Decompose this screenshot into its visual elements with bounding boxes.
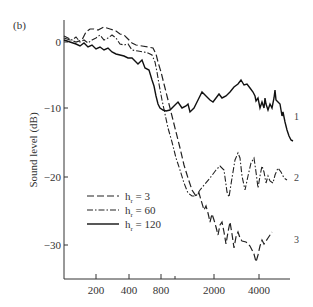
legend-item-hr-3: hr = 3	[87, 190, 151, 205]
curve-hr-3	[64, 27, 272, 262]
curve-label-2: 2	[294, 172, 299, 183]
sound-level-chart: (b) Sound level (dB) 0 −10 −20 −30 200 4…	[0, 0, 313, 307]
y-tick-label: −20	[44, 171, 62, 183]
curve-hr-120	[64, 40, 293, 141]
legend-suffix: = 3	[133, 190, 151, 202]
y-axis-label: Sound level (dB)	[27, 112, 40, 187]
x-tick-label: 400	[121, 284, 138, 296]
legend-suffix: = 120	[133, 218, 162, 230]
svg-text:hr = 3: hr = 3	[125, 190, 151, 205]
legend-item-hr-60: hr = 60	[87, 204, 156, 219]
x-tick-label: 4000	[248, 284, 271, 296]
curve-label-1: 1	[294, 111, 299, 122]
x-tick-label: 800	[153, 284, 170, 296]
panel-label: (b)	[13, 19, 26, 32]
x-tick-label: 2000	[203, 284, 226, 296]
x-tick-label: 200	[88, 284, 105, 296]
legend: hr = 3 hr = 60 hr = 120	[87, 190, 162, 233]
svg-text:hr = 120: hr = 120	[125, 218, 162, 233]
y-tick-label: −30	[44, 239, 62, 251]
y-tick-label: −10	[44, 102, 62, 114]
legend-suffix: = 60	[133, 204, 156, 216]
svg-text:hr = 60: hr = 60	[125, 204, 156, 219]
x-ticks: 200 400 800 2000 4000	[88, 274, 271, 296]
axes	[64, 20, 290, 279]
curve-hr-60	[64, 35, 287, 197]
y-tick-label: 0	[56, 36, 62, 48]
legend-item-hr-120: hr = 120	[87, 218, 162, 233]
curve-label-3: 3	[294, 234, 299, 245]
